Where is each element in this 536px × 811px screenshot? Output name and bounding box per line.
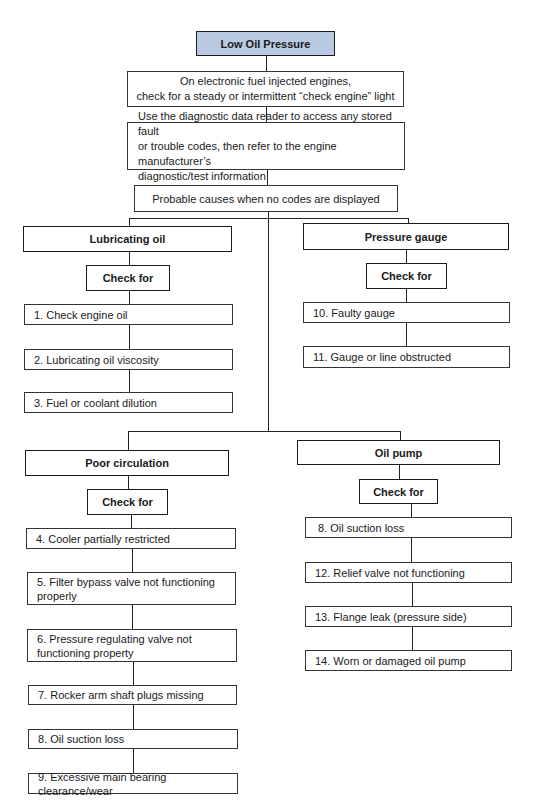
connector: [129, 370, 130, 392]
category-pressure-gauge: Pressure gauge: [303, 223, 509, 250]
cause-item: 6. Pressure regulating valve not functio…: [27, 629, 237, 662]
bus-line-bottom: [128, 431, 401, 432]
connector: [132, 549, 133, 572]
connector: [132, 605, 133, 629]
cause-item: 12. Relief valve not functioning: [305, 562, 512, 583]
category-label: Poor circulation: [85, 457, 169, 469]
cause-label: 14. Worn or damaged oil pump: [315, 654, 466, 668]
cause-label: 8. Oil suction loss: [38, 732, 124, 746]
step-probable-causes: Probable causes when no codes are displa…: [134, 185, 398, 212]
connector: [406, 250, 407, 263]
check-for-poor-circulation: Check for: [87, 489, 168, 515]
bus-line-top: [129, 218, 409, 219]
connector: [411, 504, 412, 517]
cause-label: 5. Filter bypass valve not functioning p…: [37, 575, 215, 603]
connector: [128, 431, 129, 450]
cause-item: 8. Oil suction loss: [28, 729, 238, 749]
connector: [129, 218, 130, 226]
cause-label: 6. Pressure regulating valve not functio…: [37, 632, 192, 660]
connector: [412, 583, 413, 606]
connector: [129, 252, 130, 265]
connector: [411, 538, 412, 562]
check-for-oil-pump: Check for: [359, 479, 438, 504]
cause-label: 12. Relief valve not functioning: [315, 566, 465, 580]
step-diagnostic-reader: Use the diagnostic data reader to access…: [127, 122, 405, 170]
connector: [129, 291, 130, 304]
cause-label: 9. Excessive main bearing clearance/wear: [38, 770, 237, 798]
trunk-line: [268, 212, 269, 431]
connector: [399, 465, 400, 479]
connector: [133, 662, 134, 685]
cause-label: 4. Cooler partially restricted: [36, 532, 170, 546]
cause-item: 3. Fuel or coolant dilution: [24, 392, 233, 413]
cause-item: 9. Excessive main bearing clearance/wear: [28, 773, 238, 794]
cause-item: 7. Rocker arm shaft plugs missing: [28, 685, 237, 705]
cause-item: 5. Filter bypass valve not functioning p…: [27, 572, 236, 605]
connector: [128, 476, 129, 489]
cause-label: 3. Fuel or coolant dilution: [34, 396, 157, 410]
connector: [266, 56, 267, 71]
cause-item: 4. Cooler partially restricted: [26, 528, 236, 549]
check-label: Check for: [103, 272, 154, 284]
check-label: Check for: [102, 496, 153, 508]
category-lubricating-oil: Lubricating oil: [23, 226, 232, 252]
step-label: Use the diagnostic data reader to access…: [138, 109, 404, 184]
check-label: Check for: [381, 270, 432, 282]
step-label: Probable causes when no codes are displa…: [152, 193, 379, 205]
root-node-low-oil-pressure: Low Oil Pressure: [196, 31, 335, 56]
cause-label: 13. Flange leak (pressure side): [315, 610, 467, 624]
cause-label: 2. Lubricating oil viscosity: [34, 353, 159, 367]
check-for-pressure-gauge: Check for: [366, 263, 447, 289]
connector: [400, 431, 401, 440]
cause-item: 14. Worn or damaged oil pump: [305, 650, 512, 671]
cause-item: 2. Lubricating oil viscosity: [24, 349, 233, 370]
check-for-lubricating-oil: Check for: [86, 265, 170, 291]
connector: [412, 627, 413, 650]
category-poor-circulation: Poor circulation: [25, 450, 229, 476]
category-label: Oil pump: [375, 447, 423, 459]
cause-label: 1. Check engine oil: [34, 308, 128, 322]
cause-label: 8. Oil suction loss: [318, 521, 404, 535]
connector: [133, 705, 134, 729]
cause-item: 1. Check engine oil: [24, 304, 233, 325]
cause-label: 11. Gauge or line obstructed: [313, 350, 451, 364]
category-label: Pressure gauge: [365, 231, 448, 243]
category-label: Lubricating oil: [90, 233, 166, 245]
cause-label: 7. Rocker arm shaft plugs missing: [38, 688, 204, 702]
cause-item: 13. Flange leak (pressure side): [305, 606, 512, 627]
category-oil-pump: Oil pump: [297, 440, 500, 465]
connector: [406, 323, 407, 346]
connector: [131, 515, 132, 528]
connector: [406, 289, 407, 302]
check-label: Check for: [373, 486, 424, 498]
cause-item: 8. Oil suction loss: [305, 517, 512, 538]
cause-item: 10. Faulty gauge: [303, 302, 510, 323]
step-label: On electronic fuel injected engines, che…: [136, 74, 394, 104]
connector: [129, 325, 130, 349]
cause-item: 11. Gauge or line obstructed: [303, 346, 510, 368]
root-label: Low Oil Pressure: [221, 38, 311, 50]
cause-label: 10. Faulty gauge: [313, 306, 395, 320]
step-check-engine-light: On electronic fuel injected engines, che…: [127, 71, 404, 107]
